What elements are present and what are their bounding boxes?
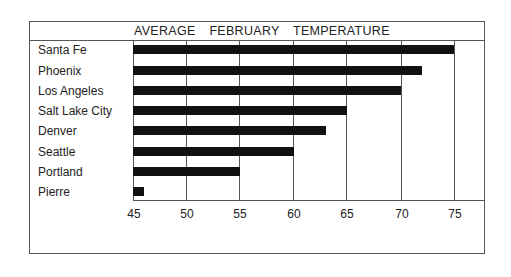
category-label: Salt Lake City <box>38 104 112 118</box>
category-label: Phoenix <box>38 64 81 78</box>
bar <box>133 147 294 156</box>
gridline-55 <box>239 41 240 201</box>
x-tick: 70 <box>395 207 408 221</box>
bar <box>133 167 240 176</box>
bar <box>133 86 401 95</box>
category-label: Seattle <box>38 145 75 159</box>
gridline-60 <box>293 41 294 201</box>
category-label: Pierre <box>38 185 70 199</box>
x-tick: 65 <box>340 207 353 221</box>
gridline-70 <box>401 41 402 201</box>
bar <box>133 45 454 54</box>
gridline-50 <box>186 41 187 201</box>
category-label: Los Angeles <box>38 84 103 98</box>
category-label: Denver <box>38 124 77 138</box>
x-tick: 50 <box>180 207 193 221</box>
category-label: Santa Fe <box>38 43 87 57</box>
gridline-65 <box>346 41 347 201</box>
x-tick: 60 <box>287 207 300 221</box>
bar <box>133 66 422 75</box>
gridline-45 <box>133 41 134 201</box>
bar <box>133 126 326 135</box>
bar <box>133 106 347 115</box>
x-tick: 75 <box>448 207 461 221</box>
x-tick: 55 <box>233 207 246 221</box>
x-tick: 45 <box>127 207 140 221</box>
chart-title: AVERAGE FEBRUARY TEMPERATURE <box>134 24 390 38</box>
bar <box>133 187 144 196</box>
gridline-75 <box>454 41 455 201</box>
category-label: Portland <box>38 165 83 179</box>
